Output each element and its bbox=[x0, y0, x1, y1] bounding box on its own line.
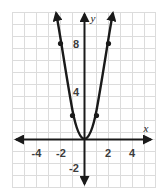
x-tick-label-pos2: 2 bbox=[105, 147, 111, 159]
parabola-graph-figure: -4 -2 2 4 8 4 -2 x y bbox=[0, 0, 163, 193]
data-point bbox=[70, 113, 75, 118]
y-tick-label-neg2: -2 bbox=[69, 162, 79, 174]
x-axis-label: x bbox=[143, 122, 149, 134]
data-point bbox=[106, 41, 111, 46]
data-point bbox=[58, 41, 63, 46]
x-tick-label-pos4: 4 bbox=[129, 147, 136, 159]
graph-canvas: -4 -2 2 4 8 4 -2 x y bbox=[0, 0, 163, 193]
data-point bbox=[94, 113, 99, 118]
y-tick-label-8: 8 bbox=[73, 38, 79, 50]
y-axis-label: y bbox=[90, 12, 96, 24]
x-tick-label-neg4: -4 bbox=[32, 147, 43, 159]
x-tick-label-neg2: -2 bbox=[56, 147, 66, 159]
y-tick-label-4: 4 bbox=[73, 86, 80, 98]
